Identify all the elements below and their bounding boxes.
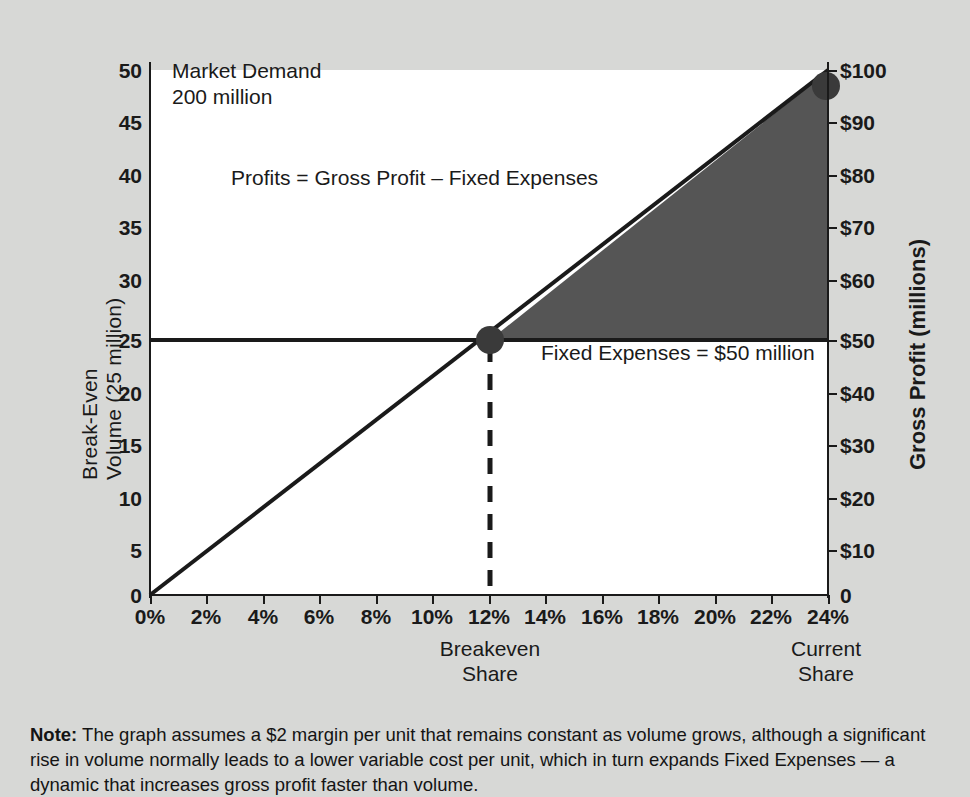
x-tickmark-24 (828, 595, 830, 604)
y-tick-left-0: 0 (96, 585, 142, 606)
breakeven-share-line1: Breakeven (440, 637, 540, 660)
y-tick-right-30: $30 (840, 435, 910, 456)
current-share-point-marker (812, 72, 840, 100)
x-tickmark-22 (771, 595, 773, 604)
y-axis-left-title-line2: Volume (25 million) (102, 298, 126, 480)
y-tick-left-10: 10 (96, 488, 142, 509)
y-axis-left-title: Break-Even Volume (25 million) (78, 298, 126, 480)
x-category-breakeven-share: Breakeven Share (400, 636, 580, 686)
profits-formula-annotation: Profits = Gross Profit – Fixed Expenses (231, 166, 598, 190)
breakeven-share-line2: Share (462, 662, 518, 685)
y-tickmark-right-10 (828, 550, 837, 552)
y-tick-right-20: $20 (840, 488, 910, 509)
y-axis-right-line (827, 62, 829, 598)
footnote-label: Note: (30, 724, 77, 745)
current-share-line2: Share (798, 662, 854, 685)
footnote-text: The graph assumes a $2 margin per unit t… (30, 724, 925, 795)
x-tickmark-10 (432, 595, 434, 604)
x-tickmark-2 (206, 595, 208, 604)
y-tick-left-35: 35 (96, 217, 142, 238)
y-tickmark-right-60 (828, 280, 837, 282)
market-demand-annotation: Market Demand 200 million (172, 58, 321, 110)
x-tickmark-18 (658, 595, 660, 604)
y-tick-right-90: $90 (840, 112, 910, 133)
fixed-expenses-annotation: Fixed Expenses = $50 million (541, 341, 815, 365)
y-tick-left-30: 30 (96, 270, 142, 291)
market-demand-line1: Market Demand (172, 59, 321, 82)
y-tick-right-40: $40 (840, 383, 910, 404)
y-tick-right-60: $60 (840, 270, 910, 291)
y-axis-right-title: Gross Profit (millions) (905, 239, 931, 470)
y-tick-left-5: 5 (96, 540, 142, 561)
y-tick-right-70: $70 (840, 217, 910, 238)
y-tick-right-10: $10 (840, 540, 910, 561)
y-tick-left-40: 40 (96, 165, 142, 186)
x-tickmark-20 (715, 595, 717, 604)
y-tickmark-right-90 (828, 122, 837, 124)
x-tick-label-24: 24% (793, 606, 863, 627)
x-tickmark-0 (150, 595, 152, 604)
y-tick-right-100: $100 (840, 60, 910, 81)
y-tickmark-right-100 (828, 70, 837, 72)
x-tickmark-16 (602, 595, 604, 604)
y-tickmark-right-20 (828, 498, 837, 500)
x-tickmark-6 (319, 595, 321, 604)
y-tickmark-right-80 (828, 175, 837, 177)
current-share-line1: Current (791, 637, 861, 660)
x-tickmark-14 (545, 595, 547, 604)
x-tickmark-8 (376, 595, 378, 604)
y-tick-right-0: 0 (840, 585, 910, 606)
y-tickmark-right-70 (828, 227, 837, 229)
x-category-current-share: Current Share (736, 636, 916, 686)
y-tick-left-45: 45 (96, 112, 142, 133)
y-tick-left-50: 50 (96, 60, 142, 81)
y-tick-right-80: $80 (840, 165, 910, 186)
x-tickmark-12 (489, 595, 491, 604)
footnote: Note: The graph assumes a $2 margin per … (30, 722, 935, 797)
x-tickmark-4 (263, 595, 265, 604)
y-tickmark-right-40 (828, 393, 837, 395)
market-demand-line2: 200 million (172, 85, 272, 108)
breakeven-point-marker (476, 326, 504, 354)
y-tick-right-50: $50 (840, 330, 910, 351)
y-axis-left-line (149, 62, 151, 598)
y-tickmark-right-50 (828, 340, 837, 342)
y-tickmark-right-30 (828, 445, 837, 447)
y-axis-left-title-line1: Break-Even (78, 298, 102, 480)
